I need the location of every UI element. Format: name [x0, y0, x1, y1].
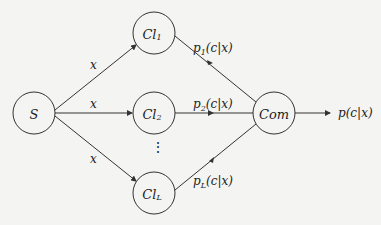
edge-s-cll: [55, 116, 136, 181]
node-cll: ClL: [133, 172, 175, 214]
node-com-label: Com: [259, 107, 289, 122]
edge-label-x-1: x: [90, 58, 97, 72]
output-label: p(c|x): [338, 106, 373, 120]
edge-label-x-l: x: [90, 152, 97, 166]
edge-label-p1: p1(c|x): [193, 41, 233, 57]
ellipsis: ⋮: [151, 139, 165, 155]
edge-label-p2: p2(c|x): [193, 97, 233, 113]
node-s: S: [13, 92, 55, 134]
ensemble-diagram: S Cl1 Cl2 ClL Com ⋮ x x x p1(c|x) p2(c|x…: [0, 0, 381, 225]
edge-label-x-2: x: [90, 97, 97, 111]
node-s-label: S: [30, 107, 39, 122]
edge-label-pl: pL(c|x): [193, 174, 233, 190]
node-cl1-label: Cl1: [142, 27, 161, 42]
node-cll-label: ClL: [142, 187, 161, 202]
node-cl2: Cl2: [133, 92, 175, 134]
node-cl1: Cl1: [133, 12, 175, 54]
node-com: Com: [253, 92, 295, 134]
node-cl2-label: Cl2: [142, 107, 161, 122]
